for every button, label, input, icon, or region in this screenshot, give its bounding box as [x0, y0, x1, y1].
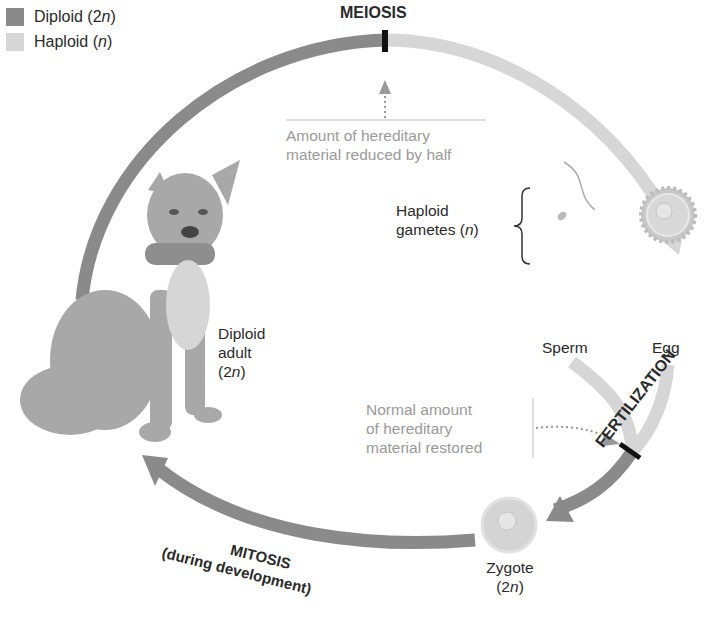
sperm-label: Sperm — [542, 338, 588, 357]
meiosis-dotted-arrowhead — [379, 80, 391, 94]
adult-line-1: Diploid — [218, 324, 265, 343]
adult-line-3: (2n) — [218, 362, 265, 381]
fert-note-line-3: material restored — [366, 438, 482, 457]
legend-haploid: Haploid (n) — [6, 33, 112, 51]
legend-diploid: Diploid (2n) — [6, 8, 116, 26]
fert-note-line-2: of hereditary — [366, 419, 482, 438]
legend-haploid-label: Haploid (n) — [34, 33, 112, 51]
legend-diploid-label: Diploid (2n) — [34, 8, 116, 26]
gametes-line-2: gametes (n) — [396, 220, 479, 239]
fertilization-note: Normal amount of hereditary material res… — [366, 400, 482, 457]
zygote-name: Zygote — [474, 558, 546, 577]
life-cycle-arrows — [0, 0, 726, 631]
haploid-swatch — [6, 33, 24, 51]
diploid-adult-label: Diploid adult (2n) — [218, 324, 265, 381]
meiosis-note-line-2: material reduced by half — [286, 145, 451, 164]
sperm-icon — [556, 162, 595, 222]
meiosis-label: MEIOSIS — [340, 4, 407, 22]
mitosis-arc — [160, 470, 475, 543]
zygote-label: Zygote (2n) — [474, 558, 546, 596]
diploid-swatch — [6, 8, 24, 26]
meiosis-note-line-1: Amount of hereditary — [286, 126, 451, 145]
gametes-line-1: Haploid — [396, 201, 479, 220]
diploid-arrow-to-zygote — [555, 452, 632, 510]
fert-note-line-1: Normal amount — [366, 400, 482, 419]
meiosis-marker — [382, 30, 388, 52]
egg-icon — [641, 188, 695, 242]
gametes-bracket — [514, 188, 530, 264]
adult-line-2: adult — [218, 343, 265, 362]
zygote-ploidy: (2n) — [474, 577, 546, 596]
dog-illustration — [20, 160, 240, 442]
haploid-gametes-label: Haploid gametes (n) — [396, 201, 479, 239]
meiosis-note: Amount of hereditary material reduced by… — [286, 126, 451, 164]
zygote-icon — [482, 498, 536, 552]
